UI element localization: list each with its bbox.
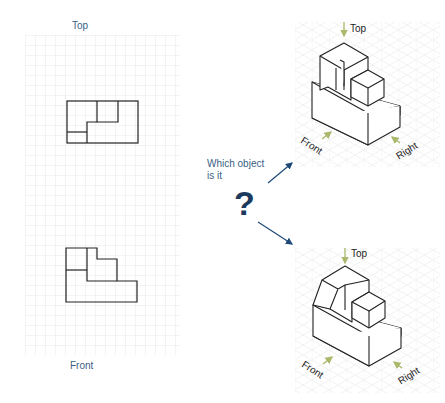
top-view-label: Top <box>72 20 88 31</box>
question-line-2: is it <box>207 170 264 182</box>
question-text: Which object is it <box>207 158 264 182</box>
question-line-1: Which object <box>207 158 264 170</box>
arrow-to-option-b <box>258 222 292 244</box>
square-grid <box>25 35 180 355</box>
diagram-canvas <box>0 0 445 403</box>
arrow-to-option-a <box>268 163 292 183</box>
option-b-top-label: Top <box>351 248 367 259</box>
question-mark: ? <box>234 184 255 223</box>
front-view-label: Front <box>70 360 93 371</box>
option-a-top-label: Top <box>350 23 366 34</box>
